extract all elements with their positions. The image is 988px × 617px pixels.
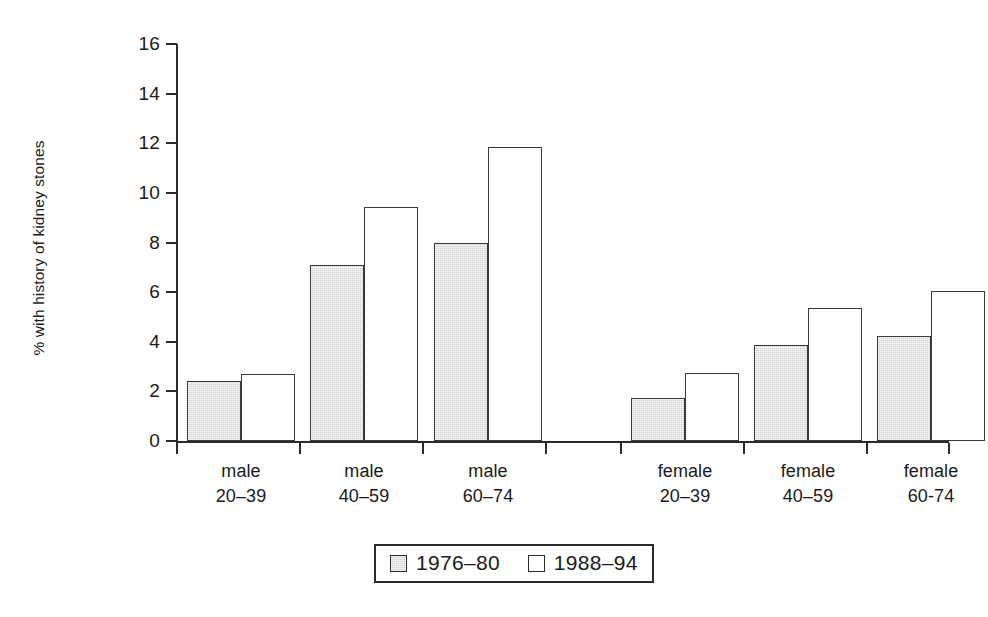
x-tick-mark — [422, 443, 424, 454]
y-tick-label: 6 — [126, 282, 160, 301]
x-axis-line — [176, 441, 949, 443]
x-tick-mark — [176, 443, 178, 454]
x-category-label-line-2: 60-74 — [851, 484, 988, 509]
y-tick-label: 12 — [126, 133, 160, 152]
x-category-label-line-2: 60–74 — [408, 484, 568, 509]
legend-item-1976-80: 1976–80 — [390, 552, 500, 574]
bar-1988-94 — [241, 374, 295, 441]
bar-1988-94 — [364, 207, 418, 441]
bar-1988-94 — [808, 308, 862, 441]
bar-1976-80 — [631, 398, 685, 441]
bar-1976-80 — [434, 243, 488, 442]
legend-swatch-grey-icon — [390, 555, 407, 572]
bar-1988-94 — [685, 373, 739, 441]
x-tick-mark — [545, 443, 547, 454]
y-axis-title: % with history of kidney stones — [18, 148, 58, 348]
x-category-label: female60-74 — [851, 459, 988, 509]
legend: 1976–80 1988–94 — [374, 544, 654, 583]
y-axis-line — [176, 44, 178, 443]
bar-1976-80 — [754, 345, 808, 441]
y-axis-title-line-2: of kidney stones — [30, 140, 47, 254]
x-category-label: male60–74 — [408, 459, 568, 509]
y-tick-label: 16 — [126, 34, 160, 53]
x-category-label-line-1: female — [851, 459, 988, 484]
bar-chart: % with history of kidney stones 02468101… — [0, 0, 988, 617]
legend-swatch-white-icon — [528, 555, 545, 572]
bar-1988-94 — [931, 291, 985, 441]
x-category-label-line-1: male — [408, 459, 568, 484]
y-tick-label: 8 — [126, 233, 160, 252]
legend-label-1988-94: 1988–94 — [554, 552, 638, 574]
legend-item-1988-94: 1988–94 — [528, 552, 638, 574]
bar-1976-80 — [187, 381, 241, 441]
y-axis-title-line-1: % with history — [30, 259, 47, 356]
bar-1988-94 — [488, 147, 542, 441]
y-tick-label: 2 — [126, 381, 160, 400]
x-tick-mark — [743, 443, 745, 454]
bar-1976-80 — [877, 336, 931, 441]
x-tick-mark — [299, 443, 301, 454]
x-tick-mark — [948, 443, 950, 454]
y-tick-label: 10 — [126, 183, 160, 202]
bar-1976-80 — [310, 265, 364, 441]
legend-label-1976-80: 1976–80 — [416, 552, 500, 574]
y-tick-label: 4 — [126, 332, 160, 351]
y-tick-label: 0 — [126, 431, 160, 450]
y-tick-label: 14 — [126, 84, 160, 103]
x-tick-mark — [620, 443, 622, 454]
x-tick-mark — [866, 443, 868, 454]
